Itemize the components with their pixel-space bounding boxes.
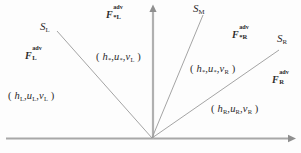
flux-label-star-L-sub: *L bbox=[113, 14, 121, 21]
riemann-wave-fan-diagram: SL SM SR FadvL Fadv*L Fadv*R FadvR ( hL,… bbox=[0, 0, 301, 153]
flux-label-R-base: F bbox=[272, 74, 279, 85]
state-label-star-L: ( h*,u*,vL ) bbox=[96, 52, 141, 63]
flux-label-L-sub: L bbox=[32, 55, 36, 62]
flux-label-star-R-sup: adv bbox=[239, 24, 249, 30]
flux-label-star-R-sub: *R bbox=[239, 34, 247, 41]
flux-label-R-sub: R bbox=[279, 79, 284, 86]
flux-label-star-L: Fadv*L bbox=[106, 8, 113, 20]
flux-label-L-sup: adv bbox=[32, 45, 42, 51]
t-axis-arrowhead bbox=[149, 5, 156, 13]
flux-label-star-R: Fadv*R bbox=[232, 28, 239, 40]
state-label-R: ( hR,uR,vR ) bbox=[211, 104, 259, 115]
state-label-R-close: ) bbox=[252, 103, 259, 114]
flux-label-star-R-base: F bbox=[232, 29, 239, 40]
state-label-star-R-close: ) bbox=[229, 63, 236, 74]
wave-label-SL: SL bbox=[40, 21, 50, 34]
state-label-star-L-close: ) bbox=[134, 51, 141, 62]
state-label-star-R: ( h*,u*,vR ) bbox=[190, 64, 235, 75]
wave-label-SM: SM bbox=[193, 3, 205, 16]
flux-label-R: FadvR bbox=[272, 73, 279, 85]
wave-label-SM-sub: M bbox=[199, 8, 205, 15]
wave-label-SR: SR bbox=[277, 33, 287, 46]
wave-label-SR-sub: R bbox=[283, 38, 288, 45]
flux-label-L: FadvL bbox=[25, 49, 32, 61]
state-label-L-close: ) bbox=[48, 90, 55, 101]
wave-ray-SL bbox=[57, 31, 152, 138]
flux-label-star-L-base: F bbox=[106, 9, 113, 20]
state-label-L: ( hL,uL,vL ) bbox=[8, 91, 54, 102]
wave-ray-SM bbox=[152, 15, 203, 138]
flux-label-R-sup: adv bbox=[279, 69, 289, 75]
flux-label-star-L-sup: adv bbox=[113, 4, 123, 10]
flux-label-L-base: F bbox=[25, 50, 32, 61]
wave-label-SL-sub: L bbox=[46, 26, 50, 33]
x-axis-arrowhead bbox=[288, 135, 296, 142]
